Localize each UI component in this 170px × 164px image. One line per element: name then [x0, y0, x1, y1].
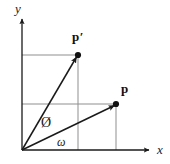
- vector-rotation-figure: y x p′ p Ø ω: [0, 0, 170, 164]
- point-p-dot: [113, 101, 119, 107]
- x-axis-label: x: [157, 143, 163, 156]
- vector-endpoints: [75, 52, 119, 107]
- figure-canvas: [0, 0, 170, 164]
- vector-label-p: p: [121, 82, 128, 95]
- angle-label-phi: Ø: [41, 116, 51, 130]
- point-p-prime-dot: [75, 52, 81, 58]
- axes: [22, 19, 149, 150]
- y-axis-label: y: [15, 2, 21, 15]
- vector-label-p-prime: p′: [72, 30, 84, 43]
- angle-label-omega: ω: [57, 136, 65, 148]
